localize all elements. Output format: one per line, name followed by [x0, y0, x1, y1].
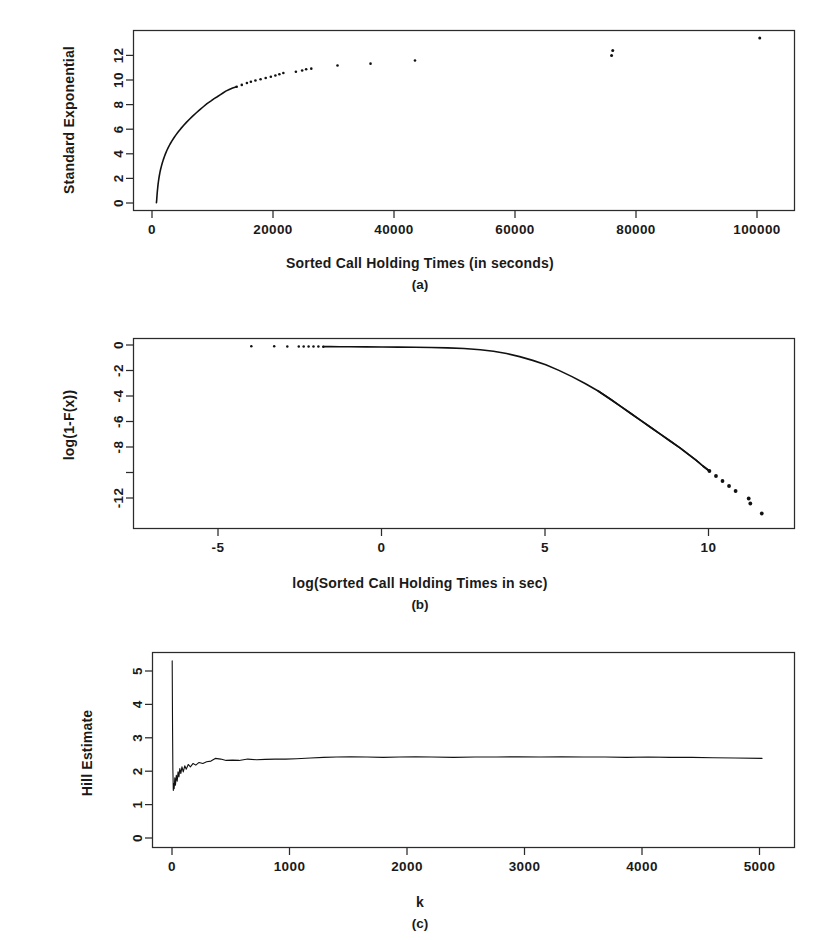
- panel-c-xtick-5000: 5000: [744, 859, 776, 874]
- panel-b-ytick-minus2: -2: [111, 364, 126, 377]
- data-point: [250, 80, 253, 83]
- data-point: [240, 84, 243, 87]
- panel-b-ytick-minus12: -12: [111, 488, 126, 509]
- data-point: [250, 345, 253, 348]
- data-point: [278, 73, 281, 76]
- panel-b-xtick-5: 5: [541, 540, 549, 555]
- panel-a-y-tick-labels: 0 2 4 6 8 10 12: [111, 47, 126, 206]
- data-point: [298, 345, 301, 348]
- data-point: [369, 62, 372, 65]
- panel-c-xtick-3000: 3000: [509, 859, 541, 874]
- panel-a-data-series: [156, 37, 761, 203]
- panel-c-ytick-4: 4: [130, 700, 145, 708]
- panel-c-ytick-2: 2: [130, 767, 145, 775]
- panel-c-plot-frame: [153, 653, 795, 848]
- panel-a-ytick-6: 6: [111, 125, 126, 133]
- panel-b-x-axis-label: log(Sorted Call Holding Times in sec): [292, 575, 547, 591]
- panel-b-xtick-0: 0: [378, 540, 386, 555]
- panel-b-y-axis-label: log(1-F(x)): [61, 390, 77, 461]
- panel-b-ytick-0: 0: [111, 341, 126, 349]
- panel-b-svg: 0 -2 -4 -6 -8 -12 log(1-F(x)) -5 0 5 10: [0, 300, 836, 620]
- data-point: [273, 345, 276, 348]
- panel-a-xtick-40000: 40000: [374, 222, 414, 237]
- data-point: [727, 484, 731, 488]
- panel-c-xtick-4000: 4000: [626, 859, 658, 874]
- panel-b-xtick-minus5: -5: [212, 540, 225, 555]
- panel-c-ytick-1: 1: [130, 801, 145, 809]
- data-point: [302, 345, 305, 348]
- panel-c-ytick-3: 3: [130, 734, 145, 742]
- data-point: [758, 37, 761, 40]
- panel-c-xtick-0: 0: [168, 859, 176, 874]
- panel-c-hill-estimate-plot: 0 1 2 3 4 5 Hill Estimate 0 1000 2000: [0, 620, 836, 940]
- data-point: [708, 469, 712, 473]
- data-point: [747, 497, 751, 501]
- data-point: [317, 345, 320, 348]
- panel-a-x-tick-labels: 0 20000 40000 60000 80000 100000: [148, 222, 781, 237]
- data-point: [721, 479, 725, 483]
- data-point: [714, 474, 718, 478]
- panel-a-ytick-12: 12: [111, 47, 126, 63]
- panel-a-ytick-4: 4: [111, 150, 126, 158]
- data-point: [336, 64, 339, 67]
- data-point: [310, 67, 313, 70]
- data-curve: [323, 347, 709, 471]
- figure-three-panel-heavy-tail-analysis: 0 2 4 6 8 10 12 Standard Exponential 0: [0, 0, 836, 940]
- panel-c-ytick-0: 0: [130, 834, 145, 842]
- panel-b-xtick-10: 10: [701, 540, 717, 555]
- data-point: [414, 59, 417, 62]
- data-curve: [172, 661, 762, 790]
- panel-a-xtick-20000: 20000: [253, 222, 293, 237]
- panel-c-x-axis-label: k: [416, 894, 424, 910]
- panel-b-ytick-minus6: -6: [111, 415, 126, 428]
- panel-b-y-tick-labels: 0 -2 -4 -6 -8 -12: [111, 341, 126, 508]
- data-point: [748, 502, 752, 506]
- data-point: [301, 69, 304, 72]
- data-point: [274, 74, 277, 77]
- panel-b-y-ticks: [126, 345, 134, 498]
- data-curve: [598, 391, 709, 471]
- panel-b-x-tick-labels: -5 0 5 10: [212, 540, 717, 555]
- panel-c-y-ticks: [145, 671, 153, 838]
- data-curve: [156, 87, 236, 203]
- panel-a-ytick-8: 8: [111, 101, 126, 109]
- panel-a-xtick-100000: 100000: [733, 222, 780, 237]
- panel-a-xtick-0: 0: [148, 222, 156, 237]
- data-point: [264, 77, 267, 80]
- panel-a-ytick-0: 0: [111, 199, 126, 207]
- panel-c-svg: 0 1 2 3 4 5 Hill Estimate 0 1000 2000: [0, 620, 836, 940]
- panel-b-x-ticks: [218, 529, 709, 537]
- panel-b-ytick-minus4: -4: [111, 390, 126, 403]
- panel-b-log-survival-plot: 0 -2 -4 -6 -8 -12 log(1-F(x)) -5 0 5 10: [0, 300, 836, 620]
- panel-a-xtick-60000: 60000: [495, 222, 535, 237]
- panel-a-ytick-10: 10: [111, 72, 126, 88]
- data-point: [235, 85, 238, 88]
- data-point: [312, 345, 315, 348]
- panel-a-ytick-2: 2: [111, 174, 126, 182]
- data-point: [295, 70, 298, 73]
- panel-a-y-ticks: [126, 55, 134, 203]
- panel-a-qq-plot: 0 2 4 6 8 10 12 Standard Exponential 0: [0, 0, 836, 300]
- panel-b-caption: (b): [411, 597, 428, 612]
- panel-a-x-axis-label: Sorted Call Holding Times (in seconds): [286, 255, 554, 271]
- panel-c-y-axis-label: Hill Estimate: [79, 710, 95, 797]
- panel-b-data-series: [250, 345, 764, 515]
- panel-c-x-tick-labels: 0 1000 2000 3000 4000 5000: [168, 859, 775, 874]
- data-point: [259, 78, 262, 81]
- data-point: [246, 82, 249, 85]
- panel-a-xtick-80000: 80000: [616, 222, 656, 237]
- panel-a-svg: 0 2 4 6 8 10 12 Standard Exponential 0: [0, 0, 836, 300]
- panel-b-plot-frame: [134, 339, 795, 529]
- panel-a-caption: (a): [412, 277, 429, 292]
- data-point: [282, 72, 285, 75]
- panel-c-data-series: [172, 661, 762, 790]
- panel-c-caption: (c): [412, 916, 429, 931]
- panel-c-xtick-2000: 2000: [391, 859, 423, 874]
- data-point: [760, 512, 764, 516]
- panel-c-xtick-1000: 1000: [274, 859, 306, 874]
- data-point: [254, 79, 257, 82]
- data-point: [286, 345, 289, 348]
- panel-c-x-ticks: [172, 848, 760, 856]
- data-point: [270, 75, 273, 78]
- panel-a-y-axis-label: Standard Exponential: [61, 46, 77, 194]
